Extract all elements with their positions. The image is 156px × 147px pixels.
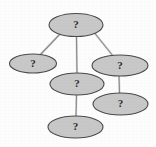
node-label-lower-right: ? <box>118 97 124 109</box>
graph-edge-root-to-left <box>40 34 60 55</box>
node-label-left: ? <box>30 57 36 69</box>
graph-node-center[interactable]: ? <box>50 73 104 95</box>
node-label-center: ? <box>74 77 80 89</box>
graph-edge-root-to-center <box>77 37 78 74</box>
node-label-root: ? <box>73 18 79 30</box>
edge-line-2 <box>77 37 78 74</box>
graph-edge-center-to-bottom <box>76 95 77 116</box>
edge-line-1 <box>40 34 60 55</box>
graph-node-bottom[interactable]: ? <box>48 116 103 138</box>
edge-line-5 <box>76 95 77 116</box>
graph-edge-right-to-lowerright <box>119 76 120 94</box>
graph-node-left[interactable]: ? <box>10 54 57 73</box>
edge-line-4 <box>119 76 120 94</box>
graph-node-root[interactable]: ? <box>49 14 103 37</box>
graph-node-right[interactable]: ? <box>92 55 148 76</box>
graph-canvas: ? ? ? ? ? ? <box>0 0 156 147</box>
graph-edge-root-to-right <box>95 34 113 57</box>
graph-node-lower-right[interactable]: ? <box>93 93 148 115</box>
graph-diagram: ? ? ? ? ? ? <box>0 0 156 147</box>
edge-line-3 <box>95 34 113 57</box>
node-label-right: ? <box>117 59 123 71</box>
node-label-bottom: ? <box>73 120 79 132</box>
node-layer: ? ? ? ? ? ? <box>10 14 149 139</box>
